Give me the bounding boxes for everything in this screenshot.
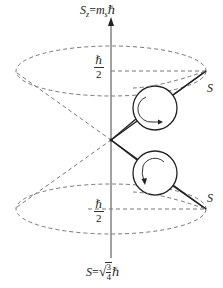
upper-projection-label: ℏ 2 (94, 55, 104, 80)
spin-cone-diagram (0, 0, 223, 288)
cone-line-upper-left (17, 73, 111, 140)
upper-vector-label: S (207, 82, 213, 94)
lower-spin-sphere (133, 151, 177, 195)
axis-top-label: Sz=msℏ (80, 4, 115, 19)
cone-apex (110, 139, 113, 142)
cone-line-lower-left (17, 140, 111, 207)
lower-vector-label: S (207, 192, 213, 204)
lower-projection-label: ℏ 2 (94, 199, 104, 224)
upper-spin-sphere (133, 86, 177, 130)
axis-bottom-label: S=√34ℏ (86, 262, 120, 282)
